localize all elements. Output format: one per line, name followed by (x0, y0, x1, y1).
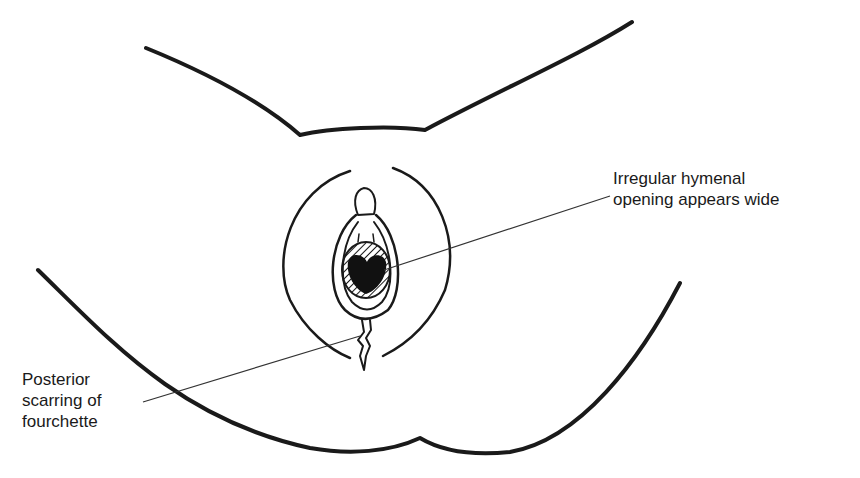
upper-body-contour (146, 22, 632, 135)
annotation-line: Irregular hymenal (613, 168, 779, 189)
clitoris (355, 188, 375, 215)
annotation-hymenal-opening: Irregular hymenal opening appears wide (613, 168, 779, 210)
annotation-posterior-scarring: Posterior scarring of fourchette (22, 369, 101, 432)
urethral-marks (358, 234, 374, 242)
annotation-line: scarring of (22, 390, 101, 411)
labia-majora-left (283, 171, 350, 358)
leader-line-hymen (384, 196, 610, 270)
anatomical-diagram (0, 0, 860, 478)
posterior-scar (358, 320, 371, 370)
labia-majora-right (383, 168, 450, 356)
annotation-line: opening appears wide (613, 189, 779, 210)
leader-line-fourchette (143, 336, 360, 402)
annotation-line: fourchette (22, 411, 101, 432)
annotation-line: Posterior (22, 369, 101, 390)
